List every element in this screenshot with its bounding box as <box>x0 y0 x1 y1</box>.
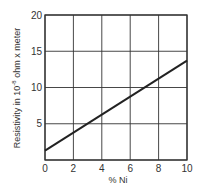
x-axis-ticks: 0246810 <box>42 163 193 174</box>
x-tick-label: 8 <box>156 163 162 174</box>
x-axis-label: % Ni <box>108 175 127 185</box>
y-label-suffix: ohm x meter <box>12 28 22 81</box>
y-tick-label: 15 <box>31 46 43 57</box>
y-tick-label: 10 <box>31 82 43 93</box>
resistivity-chart: 0246810 5101520 % Ni Resistivity in 10-8… <box>0 0 203 192</box>
y-label-prefix: Resistivity in 10 <box>12 86 22 149</box>
y-axis-ticks: 5101520 <box>31 10 43 130</box>
x-tick-label: 0 <box>42 163 48 174</box>
x-tick-label: 2 <box>71 163 77 174</box>
data-line <box>45 61 187 151</box>
y-axis-label: Resistivity in 10-8 ohm x meter <box>11 28 22 148</box>
x-tick-label: 10 <box>181 163 193 174</box>
x-tick-label: 6 <box>127 163 133 174</box>
y-tick-label: 20 <box>31 10 43 21</box>
y-tick-label: 5 <box>36 118 42 129</box>
x-tick-label: 4 <box>99 163 105 174</box>
